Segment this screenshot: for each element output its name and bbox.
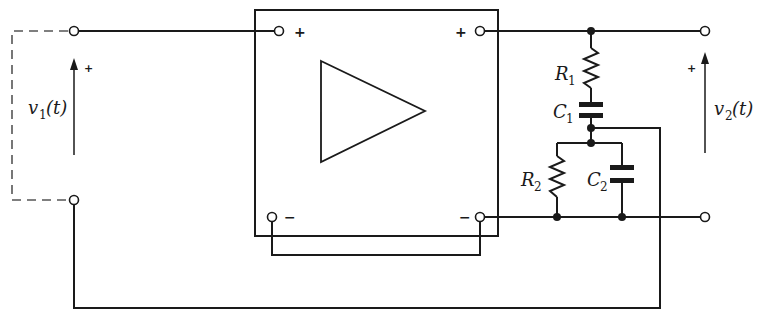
v2-arrow-head-icon — [701, 52, 709, 64]
svg-text:1: 1 — [568, 74, 576, 88]
svg-text:R: R — [554, 63, 569, 84]
svg-text:1: 1 — [566, 112, 574, 126]
capacitor-c1-plate-top — [579, 102, 603, 107]
amp-output-minus-terminal — [476, 213, 485, 222]
input-terminal-top — [70, 27, 79, 36]
input-voltage-label: v 1 (t) — [28, 97, 67, 122]
output-voltage-label: v 2 (t) — [714, 98, 753, 123]
circuit-diagram: + − + − + + v 1 (t) v 2 (t) R 1 C 1 R 2 … — [0, 0, 762, 325]
amp-input-minus-label: − — [284, 209, 296, 225]
junction-dot-top — [587, 27, 595, 35]
c2-label: C 2 — [587, 169, 608, 194]
svg-text:C: C — [587, 169, 601, 190]
svg-text:2: 2 — [600, 180, 608, 194]
junction-dot-branch — [587, 139, 595, 147]
amp-output-plus-terminal — [476, 27, 485, 36]
capacitor-c1-plate-bottom — [579, 113, 603, 118]
v1-polarity-label: + — [84, 62, 93, 75]
svg-text:2: 2 — [534, 180, 542, 194]
amp-input-plus-label: + — [294, 24, 306, 40]
input-terminal-bottom — [70, 196, 79, 205]
amplifier-box — [255, 10, 498, 236]
svg-text:(t): (t) — [46, 97, 67, 118]
svg-text:v: v — [714, 98, 724, 119]
resistor-r1-icon — [584, 48, 598, 88]
output-terminal-bottom — [701, 213, 710, 222]
amp-output-minus-label: − — [459, 209, 471, 225]
amplifier-triangle-icon — [321, 61, 425, 162]
svg-text:(t): (t) — [732, 98, 753, 119]
minus-terminal-link-wire — [272, 221, 480, 255]
amp-output-plus-label: + — [455, 24, 467, 40]
resistor-r2-icon — [550, 156, 564, 197]
v2-polarity-label: + — [687, 62, 696, 75]
v1-arrow-head-icon — [70, 58, 78, 70]
junction-dot-c1 — [587, 124, 595, 132]
junction-dot-r2-bottom — [553, 213, 561, 221]
svg-text:v: v — [28, 97, 38, 118]
capacitor-c2-plate-top — [610, 165, 634, 170]
capacitor-c2-plate-bottom — [610, 178, 634, 183]
r1-label: R 1 — [554, 63, 576, 88]
svg-text:R: R — [520, 169, 535, 190]
output-terminal-top — [701, 27, 710, 36]
c1-label: C 1 — [553, 101, 574, 126]
amp-input-minus-terminal — [268, 213, 277, 222]
junction-dot-c2-bottom — [618, 213, 626, 221]
r2-label: R 2 — [520, 169, 542, 194]
amp-input-plus-terminal — [275, 27, 284, 36]
svg-text:C: C — [553, 101, 567, 122]
